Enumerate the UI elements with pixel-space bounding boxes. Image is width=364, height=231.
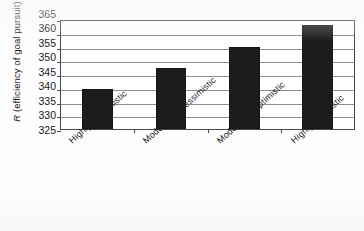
y-axis-title-symbol: R	[11, 115, 22, 122]
y-axis-tick-label: 360	[26, 23, 56, 34]
y-axis-tick-labels: 365360355350345340335330325	[26, 14, 56, 130]
y-axis-tick-label: 330	[26, 110, 56, 121]
y-axis-title-text: (efficiency of goal pursuit)	[11, 1, 22, 115]
bar-slot	[208, 21, 281, 129]
bar-slot	[281, 21, 354, 129]
bar	[82, 89, 113, 130]
y-axis-tick-label: 350	[26, 52, 56, 63]
caption-remnant	[0, 222, 364, 231]
bar	[156, 68, 187, 129]
y-axis-tick-label: 325	[26, 125, 56, 136]
y-axis-tick-label: 335	[26, 96, 56, 107]
y-axis-tick-label: 340	[26, 81, 56, 92]
y-axis-tick-label: 355	[26, 38, 56, 49]
chart-figure: R (efficiency of goal pursuit) 365360355…	[0, 0, 364, 231]
bar	[229, 47, 260, 129]
y-axis-tick-label: 365	[26, 9, 56, 20]
plot-area	[60, 20, 355, 130]
y-axis-title: R (efficiency of goal pursuit)	[11, 0, 22, 130]
bar	[302, 25, 333, 129]
bar-slot	[134, 21, 207, 129]
y-axis-tick-label: 345	[26, 67, 56, 78]
bar-slot	[61, 21, 134, 129]
x-axis-category-labels: Highly pessimisticModerately pessimistic…	[60, 130, 355, 222]
bar-series	[61, 21, 354, 129]
